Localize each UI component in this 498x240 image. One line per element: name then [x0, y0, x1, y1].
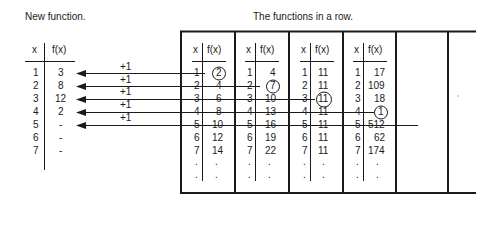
- cell-fx: 10: [212, 120, 223, 130]
- cell-fx: 19: [265, 133, 276, 143]
- cell-x: 6: [247, 133, 253, 143]
- cell-x: 1: [194, 68, 200, 78]
- cell-x: 1: [247, 68, 253, 78]
- cell-fx: 6: [216, 94, 222, 104]
- cell-fx: 16: [265, 120, 276, 130]
- ellipsis: .: [215, 157, 218, 167]
- cell-fx: 18: [374, 94, 385, 104]
- header-x: x: [354, 45, 359, 55]
- cell-fx: 11: [318, 120, 328, 130]
- cell-x: 3: [355, 94, 361, 104]
- cell-x: 3: [302, 94, 308, 104]
- ellipsis: .: [303, 157, 306, 167]
- header-fx: f(x): [315, 45, 329, 55]
- ellipsis: .: [303, 170, 306, 180]
- cell-fx: 11: [318, 107, 328, 117]
- cell-fx-circled: 1: [378, 107, 384, 117]
- cell-fx: 10: [265, 94, 276, 104]
- cell-fx: 14: [212, 146, 223, 156]
- cell-x: 4: [302, 107, 308, 117]
- cell-x: 4: [355, 107, 361, 117]
- cell-fx: 4: [216, 81, 222, 91]
- cell-fx: 174: [368, 146, 385, 156]
- cell-x: 1: [355, 68, 361, 78]
- cell-fx: 12: [212, 133, 223, 143]
- cell-x: 2: [247, 81, 253, 91]
- cell-x: 4: [194, 107, 200, 117]
- cell-fx-circled: 2: [216, 68, 222, 78]
- cell-fx-circled: 7: [270, 81, 276, 91]
- cell-fx: 8: [216, 107, 222, 117]
- cell-fx: 13: [265, 107, 276, 117]
- cell-x: 3: [194, 94, 200, 104]
- cell-fx: 62: [374, 133, 385, 143]
- cell-fx: 109: [368, 81, 385, 91]
- cell-x: 7: [355, 146, 361, 156]
- header-fx: f(x): [260, 45, 274, 55]
- header-x: x: [246, 45, 251, 55]
- cell-x: 2: [355, 81, 361, 91]
- cell-x: 3: [247, 94, 253, 104]
- header-fx: f(x): [368, 45, 382, 55]
- cell-fx: 22: [265, 146, 276, 156]
- ellipsis: .: [322, 170, 325, 180]
- cell-x: 6: [194, 133, 200, 143]
- ellipsis: .: [248, 157, 251, 167]
- cell-fx: 11: [318, 81, 328, 91]
- cell-x: 7: [302, 146, 308, 156]
- cell-x: 7: [194, 146, 200, 156]
- cell-x: 5: [194, 120, 200, 130]
- cell-x: 5: [247, 120, 253, 130]
- cell-x: 5: [302, 120, 308, 130]
- cell-x: 4: [247, 107, 253, 117]
- ellipsis: .: [376, 157, 379, 167]
- ellipsis: .: [215, 170, 218, 180]
- cell-x: 1: [302, 68, 308, 78]
- cell-fx: 4: [270, 68, 276, 78]
- cell-fx: 512: [368, 120, 385, 130]
- cell-x: 5: [355, 120, 361, 130]
- ellipsis: .: [322, 157, 325, 167]
- ellipsis: .: [195, 170, 198, 180]
- ellipsis: .: [195, 157, 198, 167]
- ellipsis: .: [376, 170, 379, 180]
- cell-x: 7: [247, 146, 253, 156]
- ellipsis: .: [356, 170, 359, 180]
- cell-fx-circled: 11: [318, 94, 328, 104]
- cell-fx: 11: [318, 133, 328, 143]
- header-fx: f(x): [207, 45, 221, 55]
- ellipsis: .: [248, 170, 251, 180]
- ellipsis: .: [268, 157, 271, 167]
- header-x: x: [193, 45, 198, 55]
- cell-x: 2: [194, 81, 200, 91]
- header-x: x: [301, 45, 306, 55]
- cell-x: 6: [355, 133, 361, 143]
- ellipsis: .: [356, 157, 359, 167]
- ellipsis: .: [268, 170, 271, 180]
- cell-x: 6: [302, 133, 308, 143]
- cell-fx: 11: [318, 68, 328, 78]
- cell-fx: 11: [318, 146, 328, 156]
- cell-x: 2: [302, 81, 308, 91]
- cell-fx: 17: [374, 68, 385, 78]
